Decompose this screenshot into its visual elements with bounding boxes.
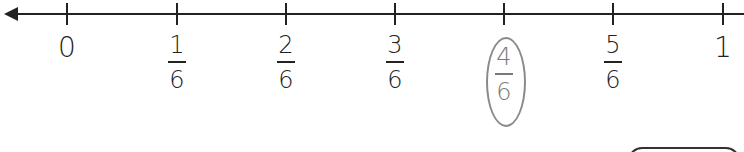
numerator: 5 <box>605 32 620 58</box>
fraction-bar <box>386 61 404 63</box>
fraction-bar <box>277 61 295 63</box>
fraction-bar <box>604 61 622 63</box>
denominator: 6 <box>169 67 184 93</box>
tick-1 <box>722 3 724 25</box>
tick-0 <box>66 3 68 25</box>
tick-4-6 <box>503 3 505 25</box>
label-0: 0 <box>58 34 76 62</box>
label-5-6: 5 6 <box>604 32 622 93</box>
numerator: 1 <box>169 32 184 58</box>
label-1-6: 1 6 <box>168 32 186 93</box>
denominator: 6 <box>496 79 511 105</box>
answer-box <box>628 147 740 152</box>
numerator: 3 <box>387 32 402 58</box>
denominator: 6 <box>387 67 402 93</box>
tick-2-6 <box>285 3 287 25</box>
label-4-6-circled: 4 6 <box>495 44 513 105</box>
fraction-bar <box>168 61 186 63</box>
number-line: 0 1 6 2 6 3 6 4 6 5 6 1 <box>0 0 744 152</box>
numerator: 4 <box>496 44 511 70</box>
tick-1-6 <box>176 3 178 25</box>
label-3-6: 3 6 <box>386 32 404 93</box>
numerator: 2 <box>278 32 293 58</box>
tick-5-6 <box>612 3 614 25</box>
denominator: 6 <box>605 67 620 93</box>
denominator: 6 <box>278 67 293 93</box>
fraction-bar <box>495 73 513 75</box>
number-line-axis <box>12 13 744 15</box>
label-1: 1 <box>714 34 732 62</box>
label-2-6: 2 6 <box>277 32 295 93</box>
tick-3-6 <box>394 3 396 25</box>
